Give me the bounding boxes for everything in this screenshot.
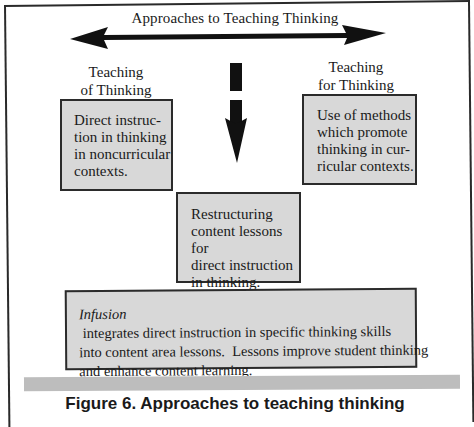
- box-line: Use of methods: [317, 107, 414, 124]
- label-line: of Thinking: [60, 81, 172, 99]
- box-line: in noncurricular: [74, 146, 170, 163]
- box-line: integrates direct instruction in specifi…: [79, 323, 391, 341]
- restructuring-box: Restructuring content lessons for direct…: [176, 192, 301, 283]
- teaching-for-thinking-box: Use of methods which promote thinking in…: [302, 94, 417, 185]
- infusion-term: Infusion: [79, 306, 127, 322]
- down-arrow-icon: [225, 63, 247, 163]
- box-line: contexts.: [74, 163, 170, 180]
- divider-bar: [24, 375, 460, 391]
- label-line: Teaching: [300, 58, 412, 76]
- teaching-for-thinking-label: Teaching for Thinking: [300, 58, 412, 94]
- teaching-of-thinking-label: Teaching of Thinking: [60, 63, 172, 99]
- box-line: Restructuring: [191, 206, 299, 223]
- label-line: for Thinking: [300, 76, 412, 94]
- box-line: ricular contexts.: [317, 158, 414, 175]
- box-line: which promote: [317, 124, 414, 141]
- box-line: thinking in cur-: [317, 141, 414, 158]
- infusion-box: Infusion integrates direct instruction i…: [65, 288, 418, 370]
- teaching-of-thinking-box: Direct instruc- tion in thinking in nonc…: [60, 99, 173, 191]
- label-line: Teaching: [60, 63, 172, 81]
- box-line: into content area lessons. Lessons impro…: [79, 341, 428, 362]
- box-line: direct instruction: [191, 257, 299, 274]
- box-line: tion in thinking: [74, 129, 170, 146]
- box-line: Direct instruc-: [74, 112, 170, 129]
- figure-caption: Figure 6. Approaches to teaching thinkin…: [0, 394, 470, 414]
- box-line: content lessons for: [191, 223, 299, 257]
- infusion-line-1: Infusion integrates direct instruction i…: [79, 303, 428, 343]
- double-headed-arrow-icon: [70, 25, 386, 49]
